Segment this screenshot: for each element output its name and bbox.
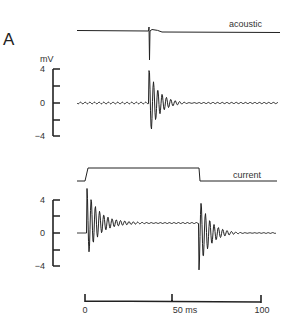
figure-panel-a: A acoustic mV 4 0 −4 current 4 0 −4 0 50…: [0, 0, 291, 331]
tick-label-4: 4: [40, 64, 45, 74]
voltage-axis-2: 4 0 −4: [35, 195, 60, 271]
time-scale-bar: 0 50 ms 100: [82, 294, 269, 315]
acoustic-label: acoustic: [229, 19, 263, 29]
acoustic-trace: acoustic: [77, 19, 280, 60]
current-label: current: [233, 170, 262, 180]
tick-label-0: 0: [40, 98, 45, 108]
voltage-axis-1: mV 4 0 −4: [35, 54, 60, 141]
voltage-unit-label: mV: [40, 54, 54, 64]
panel-label: A: [3, 30, 15, 49]
time-tick-100: 100: [254, 305, 269, 315]
current-trace: current: [77, 168, 277, 181]
time-tick-0: 0: [82, 305, 87, 315]
tick-label-4: 4: [40, 195, 45, 205]
time-tick-50: 50 ms: [173, 305, 198, 315]
current-response-trace: [77, 189, 276, 270]
tick-label-neg4: −4: [35, 131, 45, 141]
tick-label-neg4: −4: [35, 261, 45, 271]
acoustic-response-trace: [77, 71, 278, 129]
tick-label-0: 0: [40, 228, 45, 238]
